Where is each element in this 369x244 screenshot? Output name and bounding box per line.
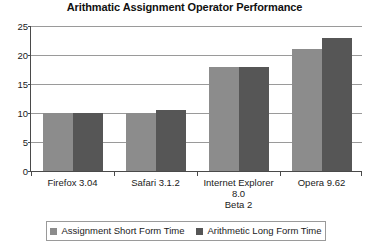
x-label-ie-line3: Beta 2 (225, 199, 252, 210)
x-tick-mark-0 (31, 172, 32, 176)
x-tick-mark-3 (280, 172, 281, 176)
y-tick-label-10: 10 (2, 109, 28, 119)
bar-ie-assignment-short (209, 67, 239, 171)
bar-opera-assignment-short (292, 49, 322, 171)
y-tick-label-15: 15 (2, 80, 28, 90)
chart-legend: Assignment Short Form Time Arithmetic Lo… (46, 221, 326, 241)
legend-entry-arithmetic-long: Arithmetic Long Form Time (196, 226, 321, 236)
bar-chart: Arithmatic Assignment Operator Performan… (0, 0, 369, 244)
legend-label-assignment-short: Assignment Short Form Time (61, 226, 184, 236)
legend-swatch-icon-short (50, 228, 57, 235)
y-axis-line (30, 26, 31, 172)
x-tick-mark-2 (197, 172, 198, 176)
bar-opera-arithmetic-long (322, 38, 352, 171)
x-label-ie-line2: 8.0 (232, 188, 245, 199)
bar-firefox-arithmetic-long (73, 113, 103, 171)
x-axis-labels: Firefox 3.04 Safari 3.1.2 Internet Explo… (31, 177, 362, 211)
legend-swatch-icon-long (196, 228, 203, 235)
y-tick-label-20: 20 (2, 51, 28, 61)
bar-safari-arithmetic-long (156, 110, 186, 171)
bar-group-internet-explorer (197, 26, 280, 171)
legend-entry-assignment-short: Assignment Short Form Time (50, 226, 184, 236)
bar-group-firefox (31, 26, 114, 171)
y-tick-label-0: 0 (2, 167, 28, 177)
bars-layer (31, 26, 362, 171)
y-tick-label-5: 5 (2, 138, 28, 148)
x-label-ie-line1: Internet Explorer (203, 177, 273, 188)
y-tick-label-25: 25 (2, 22, 28, 32)
bar-firefox-assignment-short (43, 113, 73, 171)
chart-title: Arithmatic Assignment Operator Performan… (0, 1, 369, 13)
x-label-internet-explorer: Internet Explorer 8.0 Beta 2 (197, 177, 280, 210)
x-label-safari: Safari 3.1.2 (114, 177, 197, 188)
bar-ie-arithmetic-long (239, 67, 269, 171)
bar-group-safari (114, 26, 197, 171)
x-tick-mark-4 (361, 172, 362, 176)
x-tick-mark-1 (114, 172, 115, 176)
legend-label-arithmetic-long: Arithmetic Long Form Time (207, 226, 321, 236)
bar-safari-assignment-short (126, 113, 156, 171)
y-axis-labels: 0 5 10 15 20 25 (0, 0, 28, 244)
x-label-firefox: Firefox 3.04 (31, 177, 114, 188)
x-label-opera: Opera 9.62 (280, 177, 363, 188)
bar-group-opera (280, 26, 363, 171)
